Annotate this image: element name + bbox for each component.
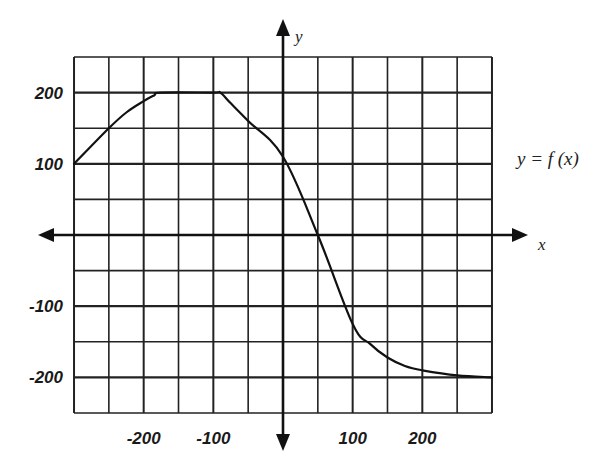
y-tick-label: -100 [29,297,64,316]
y-axis-up-arrow-icon [276,19,290,36]
function-label: y = f (x) [515,148,579,170]
x-tick-label: -100 [196,429,231,448]
x-tick-label: 100 [338,429,367,448]
y-tick-label: 100 [35,155,64,174]
x-axis-right-arrow-icon [512,228,528,242]
axes [38,19,528,451]
y-tick-label: -200 [29,368,64,387]
x-axis-left-arrow-icon [38,228,54,242]
x-tick-label: -200 [127,429,162,448]
y-axis-down-arrow-icon [276,434,290,451]
x-axis-label: x [537,235,546,254]
y-tick-label: 200 [34,84,64,103]
x-tick-label: 200 [407,429,437,448]
function-graph: 200100-100-200 -200-100100200 y x y = f … [0,0,601,460]
y-axis-label: y [293,27,303,46]
